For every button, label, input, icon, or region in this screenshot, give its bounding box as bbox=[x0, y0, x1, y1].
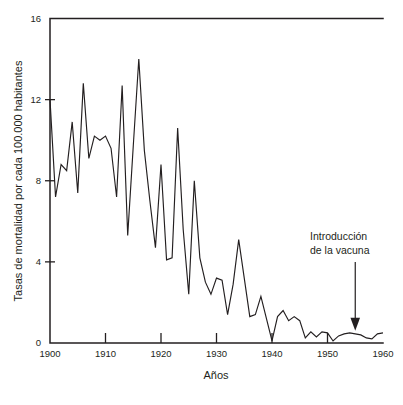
y-axis-title: Tasas de mortalidad por cada 100.000 hab… bbox=[12, 60, 24, 301]
x-tick-label-1940: 1940 bbox=[261, 348, 282, 359]
vaccine-arrow-icon bbox=[350, 262, 360, 331]
x-tick-label-1920: 1920 bbox=[150, 348, 171, 359]
y-axis-tick-labels: 0481216 bbox=[30, 13, 41, 349]
x-tick-label-1910: 1910 bbox=[95, 348, 116, 359]
annotation-line-2: de la vacuna bbox=[310, 244, 370, 256]
y-tick-label-4: 4 bbox=[36, 256, 41, 267]
x-tick-label-1930: 1930 bbox=[206, 348, 227, 359]
plot-frame bbox=[50, 19, 383, 344]
mortality-line-chart: 0481216 1900191019201930194019501960 Int… bbox=[0, 0, 403, 405]
annotation-line-1: Introducción bbox=[310, 230, 367, 242]
y-tick-label-16: 16 bbox=[30, 13, 41, 24]
x-tick-label-1950: 1950 bbox=[317, 348, 338, 359]
y-tick-label-8: 8 bbox=[36, 175, 41, 186]
x-tick-label-1900: 1900 bbox=[39, 348, 60, 359]
y-tick-label-12: 12 bbox=[30, 94, 41, 105]
data-series-line bbox=[50, 59, 383, 341]
x-axis-tick-labels: 1900191019201930194019501960 bbox=[39, 348, 393, 359]
chart-container: 0481216 1900191019201930194019501960 Int… bbox=[0, 0, 403, 405]
y-tick-label-0: 0 bbox=[36, 337, 41, 348]
x-axis-title: Años bbox=[203, 369, 229, 381]
x-axis-tick-marks bbox=[106, 333, 328, 343]
x-tick-label-1960: 1960 bbox=[372, 348, 393, 359]
